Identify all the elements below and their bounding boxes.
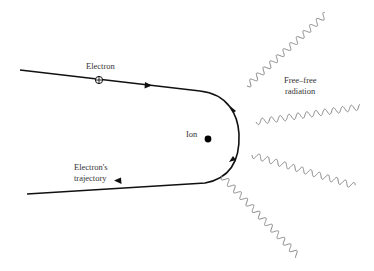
electron-icon [95,76,102,83]
ion-icon [205,136,212,143]
photon-wave-icon [252,154,355,187]
radiation-label-line2: radiation [285,86,315,96]
arrow-incoming-icon [145,82,153,89]
radiation-label-line1: Free–free [284,75,317,85]
ion-label: Ion [186,129,197,139]
photon-wave-icon [221,176,297,258]
trajectory-label-line2: trajectory [74,173,107,183]
arrow-outgoing-icon [114,178,122,185]
trajectory-label-line1: Electron's [74,162,108,172]
photon-wave-icon [256,104,360,124]
radiation-waves [221,12,359,258]
electron-label: Electron [86,61,115,71]
electron-trajectory [20,70,239,194]
